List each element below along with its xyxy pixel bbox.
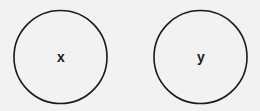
- diagram-canvas: x y: [0, 0, 260, 111]
- node-x-label: x: [57, 49, 65, 65]
- node-y-label: y: [197, 49, 205, 65]
- node-x: x: [14, 11, 107, 104]
- node-y: y: [154, 11, 247, 104]
